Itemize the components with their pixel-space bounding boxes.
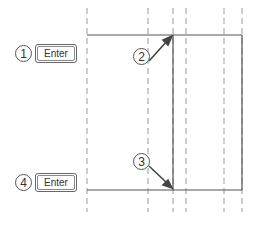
step-number-1: 1 <box>15 45 32 62</box>
step-marker-2: 2 <box>133 48 150 65</box>
callout-step-1: 1 Enter <box>15 44 77 63</box>
arrows <box>149 36 172 188</box>
step-marker-3: 3 <box>133 153 150 170</box>
enter-key-icon: Enter <box>35 173 77 192</box>
callout-step-4: 4 Enter <box>15 173 77 192</box>
enter-key-icon: Enter <box>35 44 77 63</box>
solid-frame <box>87 35 242 190</box>
enter-key-label: Enter <box>37 175 75 190</box>
step-number-4: 4 <box>15 174 32 191</box>
enter-key-label: Enter <box>37 46 75 61</box>
